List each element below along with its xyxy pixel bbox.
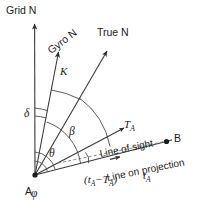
label-bearing-t-a: TA (124, 119, 135, 133)
label-point-b: B (174, 133, 181, 144)
arc-delta-outer (35, 116, 46, 118)
label-t-difference-open: (t (84, 173, 91, 185)
label-delta: δ (24, 108, 29, 120)
node-dot-a (32, 172, 37, 177)
label-t-difference-close: ) (113, 173, 117, 185)
label-beta: β (69, 126, 75, 138)
azimuth-diagram: Grid N Gyro N True N K δ β θ φ A B TA tA… (0, 0, 198, 203)
label-bearing-t-a-grid-sub: A (146, 175, 151, 184)
ray-line-on-projection-arrowhead (110, 157, 120, 160)
arc-kappa (51, 90, 80, 100)
label-grid-north: Grid N (6, 5, 36, 16)
label-kappa: K (60, 66, 67, 77)
label-bearing-t-a-sub: A (130, 124, 135, 133)
label-true-north: True N (97, 27, 129, 38)
label-theta: θ (49, 148, 55, 160)
node-dot-b (164, 139, 169, 144)
arc-delta (35, 108, 48, 111)
label-point-a: A (25, 186, 32, 197)
label-t-difference: (tA−TA) (84, 174, 117, 188)
label-t-difference-minus: −T (95, 173, 109, 185)
arc-beta (79, 98, 110, 147)
